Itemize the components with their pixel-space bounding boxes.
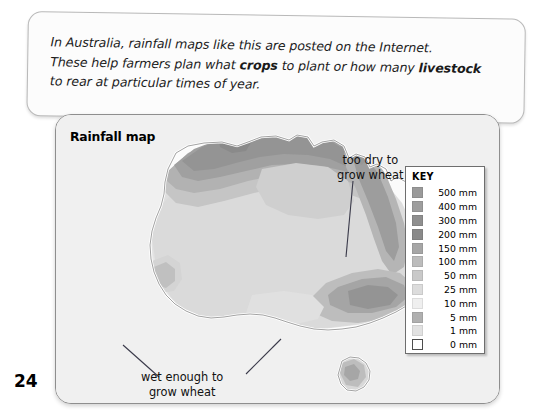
key-swatch	[412, 215, 423, 226]
caption-line-1: In Australia, rainfall maps like this ar…	[50, 34, 432, 55]
key-row: 1 mm	[406, 324, 484, 338]
key-row: 5 mm	[406, 310, 484, 324]
key-row: 0 mm	[406, 338, 484, 352]
key-row: 200 mm	[406, 227, 484, 241]
map-key-legend: KEY 500 mm400 mm300 mm200 mm150 mm100 mm…	[405, 166, 485, 354]
key-swatch	[412, 298, 423, 309]
key-label: 500 mm	[423, 187, 484, 198]
key-row: 500 mm	[406, 186, 484, 200]
caption-line-2-part-c: to plant or how many	[278, 57, 419, 74]
key-swatch	[412, 284, 423, 295]
key-item-list: 500 mm400 mm300 mm200 mm150 mm100 mm50 m…	[406, 186, 484, 352]
key-swatch	[412, 243, 423, 254]
key-row: 300 mm	[406, 214, 484, 228]
key-title: KEY	[412, 171, 434, 182]
key-row: 10 mm	[406, 296, 484, 310]
key-label: 50 mm	[423, 270, 484, 281]
key-label: 100 mm	[423, 256, 484, 267]
key-swatch	[412, 201, 423, 212]
key-label: 0 mm	[423, 339, 484, 350]
caption-line-3: to rear at particular times of year.	[50, 73, 260, 91]
key-swatch	[412, 187, 423, 198]
key-swatch	[412, 256, 423, 267]
key-label: 300 mm	[423, 215, 484, 226]
key-row: 100 mm	[406, 255, 484, 269]
caption-keyword-crops: crops	[239, 57, 278, 73]
page-number: 24	[14, 371, 38, 391]
key-label: 10 mm	[423, 298, 484, 309]
annotation-too-dry: too dry to grow wheat	[337, 153, 404, 182]
key-label: 25 mm	[423, 284, 484, 295]
key-label: 150 mm	[423, 243, 484, 254]
annotation-wet-enough-line1: wet enough to	[141, 370, 223, 385]
annotation-wet-enough: wet enough to grow wheat	[141, 370, 223, 399]
key-label: 400 mm	[423, 201, 484, 212]
caption-line-2-part-a: These help farmers plan what	[50, 54, 240, 72]
caption-keyword-livestock: livestock	[419, 60, 482, 76]
key-label: 200 mm	[423, 229, 484, 240]
key-row: 150 mm	[406, 241, 484, 255]
page-root: In Australia, rainfall maps like this ar…	[0, 0, 553, 416]
key-swatch	[412, 312, 423, 323]
key-row: 400 mm	[406, 200, 484, 214]
key-swatch	[412, 325, 423, 336]
annotation-too-dry-line2: grow wheat	[337, 168, 404, 183]
key-swatch	[412, 339, 423, 350]
caption-text: In Australia, rainfall maps like this ar…	[50, 32, 503, 98]
caption-card: In Australia, rainfall maps like this ar…	[26, 11, 526, 124]
annotation-wet-enough-line2: grow wheat	[141, 385, 223, 400]
map-title: Rainfall map	[70, 129, 155, 144]
key-row: 50 mm	[406, 269, 484, 283]
key-swatch	[412, 229, 423, 240]
annotation-too-dry-line1: too dry to	[337, 153, 404, 168]
key-label: 1 mm	[423, 325, 484, 336]
rainfall-map-card: Rainfall map	[55, 114, 500, 404]
key-swatch	[412, 270, 423, 281]
key-label: 5 mm	[423, 312, 484, 323]
key-row: 25 mm	[406, 283, 484, 297]
